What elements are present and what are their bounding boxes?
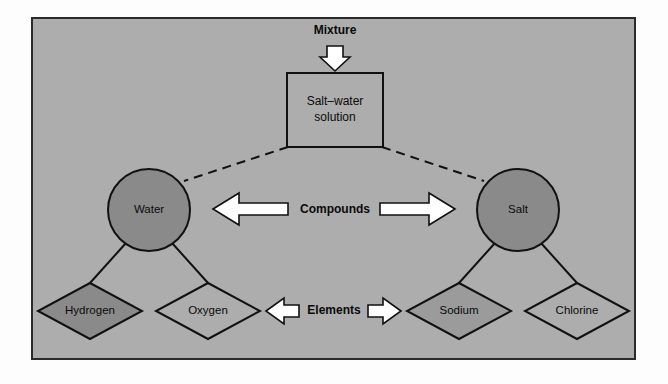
connector-salt-to-sodium (459, 243, 495, 283)
diagram-canvas: Mixture Salt–water solution Water Salt C… (0, 0, 668, 384)
compounds-left-arrow-icon (213, 193, 288, 225)
connector-salt-to-chlorine (541, 243, 577, 283)
elements-right-arrow-icon (368, 298, 401, 324)
element-node-chlorine (525, 283, 629, 339)
connector-mixture-to-salt (382, 147, 484, 181)
mixture-box (287, 73, 383, 147)
connector-water-to-oxygen (172, 243, 208, 283)
element-node-oxygen (156, 283, 260, 339)
compound-node-water (108, 169, 190, 251)
compounds-right-arrow-icon (380, 193, 455, 225)
diagram-graphics (0, 0, 668, 384)
connector-water-to-hydrogen (90, 243, 126, 283)
elements-left-arrow-icon (266, 298, 299, 324)
element-node-sodium (407, 283, 511, 339)
compound-node-salt (477, 169, 559, 251)
element-node-hydrogen (38, 283, 142, 339)
connector-mixture-to-water (184, 147, 288, 181)
down-arrow-icon (320, 46, 350, 71)
